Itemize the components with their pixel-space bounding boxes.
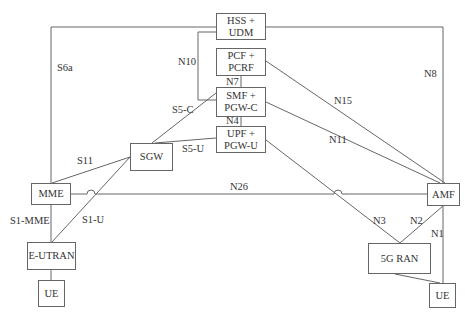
label-s1u: S1-U <box>82 214 104 226</box>
label-n1: N1 <box>431 228 444 240</box>
node-hss-udm: HSS + UDM <box>216 13 266 40</box>
link-n15 <box>266 61 445 183</box>
node-pcf-pcrf: PCF + PCRF <box>216 48 266 76</box>
link-s5c <box>152 93 216 143</box>
label-s1mme: S1-MME <box>10 215 50 227</box>
node-5g-ran: 5G RAN <box>368 243 431 274</box>
node-ue-right: UE <box>429 283 456 308</box>
link-n8 <box>266 27 443 183</box>
node-smf-pgwc: SMF + PGW-C <box>216 87 266 117</box>
label-n8: N8 <box>424 68 437 80</box>
label-s5c: S5-C <box>172 104 194 116</box>
link-n26 <box>71 190 427 194</box>
node-mme: MME <box>31 183 71 205</box>
label-n4: N4 <box>226 115 239 127</box>
label-n7: N7 <box>226 76 239 88</box>
link-n11 <box>266 102 440 183</box>
node-eutran: E-UTRAN <box>27 242 76 270</box>
node-upf-pgwu: UPF + PGW-U <box>216 126 266 153</box>
label-n2: N2 <box>410 215 423 227</box>
node-amf: AMF <box>427 183 460 206</box>
label-n10: N10 <box>178 56 196 68</box>
label-n26: N26 <box>230 181 248 193</box>
label-n15: N15 <box>334 95 352 107</box>
node-ue-left: UE <box>38 280 65 307</box>
link-ran-ue <box>395 274 440 283</box>
label-s5u: S5-U <box>182 143 204 155</box>
link-n10 <box>198 32 216 100</box>
label-n11: N11 <box>329 134 347 146</box>
label-s6a: S6a <box>57 62 73 74</box>
label-s11: S11 <box>77 155 93 167</box>
label-n3: N3 <box>373 215 386 227</box>
node-sgw: SGW <box>130 143 173 171</box>
